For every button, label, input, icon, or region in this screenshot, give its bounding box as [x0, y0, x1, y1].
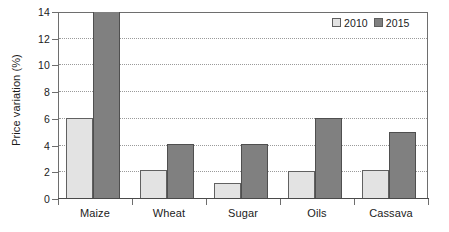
x-tick-mark — [428, 199, 429, 205]
y-tick-label: 4 — [10, 140, 50, 152]
legend-item-2015: 2015 — [374, 17, 410, 29]
bar-wheat-2015 — [167, 144, 194, 199]
bar-cassava-2010 — [362, 170, 389, 199]
y-tick-label: 12 — [10, 33, 50, 45]
y-tick-label: 10 — [10, 59, 50, 71]
x-tick-mark — [132, 199, 133, 205]
y-tick-label: 0 — [10, 193, 50, 205]
plot-area — [58, 12, 428, 199]
plot-inner — [59, 13, 427, 199]
x-tick-mark — [58, 199, 59, 205]
x-tick-label-wheat: Wheat — [153, 207, 185, 219]
legend-label-2010: 2010 — [344, 17, 368, 29]
y-tick-label: 14 — [10, 6, 50, 18]
x-tick-label-cassava: Cassava — [369, 207, 413, 219]
bar-sugar-2015 — [241, 144, 268, 199]
x-axis-baseline — [58, 198, 429, 199]
x-tick-mark — [354, 199, 355, 205]
legend-swatch-2010-icon — [332, 18, 341, 27]
x-tick-mark — [206, 199, 207, 205]
bar-oils-2015 — [315, 118, 342, 199]
x-tick-mark — [280, 199, 281, 205]
bar-wheat-2010 — [140, 170, 167, 199]
bar-cassava-2015 — [389, 132, 416, 199]
legend-label-2015: 2015 — [386, 17, 410, 29]
y-tick-label: 2 — [10, 166, 50, 178]
y-tick-label: 6 — [10, 113, 50, 125]
bar-chart-figure: Price variation (%) 02468101214 MaizeWhe… — [0, 0, 449, 232]
bar-maize-2015 — [93, 12, 120, 199]
y-tick-label: 8 — [10, 86, 50, 98]
bar-sugar-2010 — [214, 183, 241, 199]
x-tick-label-sugar: Sugar — [228, 207, 258, 219]
x-tick-label-maize: Maize — [80, 207, 110, 219]
bar-oils-2010 — [288, 171, 315, 199]
x-tick-label-oils: Oils — [307, 207, 326, 219]
legend-item-2010: 2010 — [332, 17, 368, 29]
bar-maize-2010 — [66, 118, 93, 199]
legend-swatch-2015-icon — [374, 18, 383, 27]
legend: 2010 2015 — [328, 13, 415, 32]
